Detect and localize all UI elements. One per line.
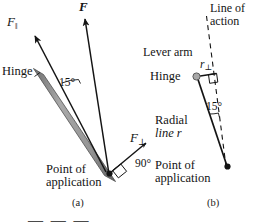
angle-arc-15-b xyxy=(210,113,219,114)
poa-b-line2: application xyxy=(155,172,211,185)
loa-line1: Line of xyxy=(210,2,245,15)
right-angle-mark-b xyxy=(209,74,218,84)
loa-line2: action xyxy=(210,15,245,28)
label-force-perpendicular: F⊥ xyxy=(130,131,147,147)
point-of-application-dot-b xyxy=(224,163,230,169)
label-force-parallel: F‖ xyxy=(7,15,18,31)
label-lever-arm-symbol: r⊥ xyxy=(200,58,212,73)
right-angle-mark-a xyxy=(113,164,127,178)
force-vector-symbol: F xyxy=(79,0,88,14)
label-lever-arm: Lever arm xyxy=(143,46,193,59)
panel-b-caption: (b) xyxy=(207,197,219,208)
force-perp-subscript: ⊥ xyxy=(138,137,147,147)
point-of-application-dot-a xyxy=(106,170,112,176)
angle-arc-15-b-tick xyxy=(218,113,219,117)
force-parallel-arrow xyxy=(35,36,106,172)
poa-a-line2: application xyxy=(46,176,102,189)
label-hinge-a: Hinge xyxy=(2,65,33,78)
radial-line-l1: Radial xyxy=(155,114,188,127)
label-angle-90-a: 90° xyxy=(135,157,151,169)
torque-figure: F‖ F Hinge 15° 90° F⊥ Point of applicati… xyxy=(0,0,257,222)
label-force-vector: F xyxy=(79,0,88,14)
angle-arc-15-a-tick xyxy=(79,80,81,84)
force-perp-symbol: F xyxy=(130,130,138,145)
poa-b-line1: Point of xyxy=(155,159,211,172)
label-angle-15-b: 15° xyxy=(206,100,222,112)
label-point-of-application-b: Point of application xyxy=(155,159,211,186)
label-point-of-application-a: Point of application xyxy=(46,163,102,190)
label-radial-line: Radial line r xyxy=(155,114,188,141)
cropped-caption-fragment: — — — xyxy=(28,212,91,222)
force-parallel-subscript: ‖ xyxy=(15,21,18,31)
force-parallel-symbol: F xyxy=(7,14,15,29)
lever-arm-r-subscript: ⊥ xyxy=(204,63,212,72)
panel-a-caption: (a) xyxy=(72,197,84,208)
line-of-action-dashed xyxy=(207,16,227,170)
hinge-circle-b xyxy=(193,73,200,80)
label-hinge-b: Hinge xyxy=(150,70,181,83)
radial-line xyxy=(197,77,227,167)
poa-a-line1: Point of xyxy=(46,163,102,176)
radial-line-l2: line r xyxy=(155,127,188,140)
label-line-of-action: Line of action xyxy=(210,2,245,27)
label-angle-15-a: 15° xyxy=(59,76,75,88)
